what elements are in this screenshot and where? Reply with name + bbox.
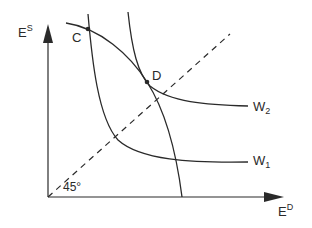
45-degree-line <box>48 34 230 197</box>
frontier-curve <box>66 23 182 197</box>
w1-curve <box>88 14 248 162</box>
x-axis-arrow-icon <box>264 192 284 202</box>
point-d <box>145 80 150 85</box>
y-axis-label-sup: S <box>27 23 33 33</box>
w1-label-sub: 1 <box>265 160 270 170</box>
point-c-label: C <box>72 31 81 44</box>
x-axis-label: ED <box>278 205 293 218</box>
y-axis-arrow-icon <box>43 24 53 43</box>
w2-label: W2 <box>253 100 270 113</box>
y-axis-label: ES <box>18 26 33 39</box>
w2-label-main: W <box>253 99 265 114</box>
point-c <box>86 27 91 32</box>
w1-label-main: W <box>253 153 265 168</box>
w1-label: W1 <box>253 154 270 167</box>
w2-curve <box>128 12 248 106</box>
angle-label: 45° <box>63 181 81 193</box>
point-d-label: D <box>152 69 161 82</box>
y-axis-label-main: E <box>18 25 27 40</box>
w2-label-sub: 2 <box>265 106 270 116</box>
x-axis-label-sup: D <box>287 202 294 212</box>
x-axis-label-main: E <box>278 204 287 219</box>
